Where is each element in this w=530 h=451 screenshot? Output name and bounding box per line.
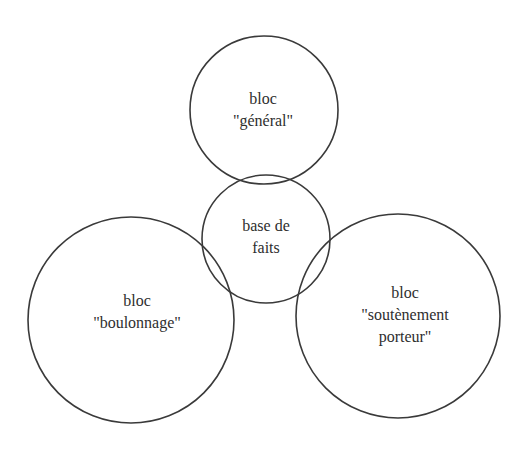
label-base-de-faits: base de faits — [242, 215, 290, 259]
label-line: porteur" — [361, 326, 448, 348]
label-bloc-boulonnage: bloc "boulonnage" — [93, 290, 181, 334]
label-line: base de — [242, 215, 290, 237]
label-line: "général" — [233, 110, 293, 132]
label-line: "boulonnage" — [93, 312, 181, 334]
label-line: faits — [242, 237, 290, 259]
label-line: bloc — [93, 290, 181, 312]
label-bloc-general: bloc "général" — [233, 88, 293, 132]
label-line: "soutènement — [361, 304, 448, 326]
label-bloc-soutenement-porteur: bloc "soutènement porteur" — [361, 282, 448, 348]
label-line: bloc — [361, 282, 448, 304]
label-line: bloc — [233, 88, 293, 110]
